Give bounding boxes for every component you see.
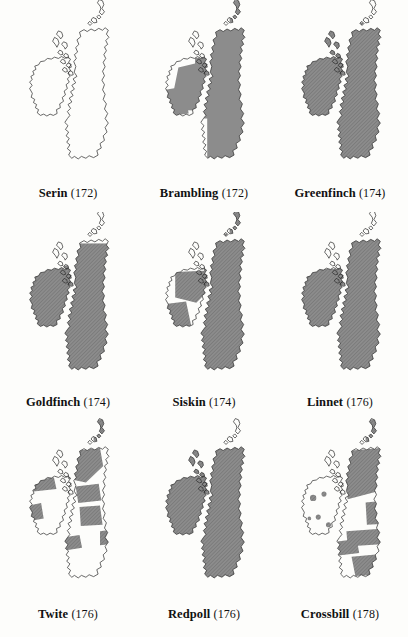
- land-fill-layer: [276, 417, 404, 608]
- map-panel-twite[interactable]: Twite (176): [0, 417, 136, 637]
- map-caption-twite: Twite (176): [0, 608, 136, 637]
- species-name: Crossbill: [301, 607, 350, 621]
- species-name: Brambling: [160, 186, 219, 200]
- species-name: Serin: [39, 186, 68, 200]
- species-name: Redpoll: [168, 607, 210, 621]
- land-fill-layer: [4, 417, 132, 608]
- map-panel-serin[interactable]: Serin (172): [0, 0, 136, 212]
- distribution-map-greenfinch: [276, 0, 404, 187]
- map-panel-linnet[interactable]: Linnet (176): [272, 212, 408, 417]
- land-fill-layer: [140, 212, 268, 396]
- map-caption-linnet: Linnet (176): [272, 396, 408, 417]
- distribution-map-crossbill: [276, 417, 404, 608]
- map-caption-goldfinch: Goldfinch (174): [0, 396, 136, 417]
- species-name: Greenfinch: [295, 186, 356, 200]
- page-number: (174): [209, 395, 236, 409]
- page-number: (178): [353, 607, 380, 621]
- distribution-map-serin: [4, 0, 132, 187]
- species-name: Siskin: [172, 395, 205, 409]
- page-number: (176): [214, 607, 241, 621]
- map-figure-goldfinch: [0, 212, 136, 396]
- map-figure-twite: [0, 417, 136, 608]
- map-figure-serin: [0, 0, 136, 187]
- land-fill-layer: [4, 0, 132, 187]
- map-panel-brambling[interactable]: Brambling (172): [136, 0, 272, 212]
- species-name: Goldfinch: [26, 395, 80, 409]
- map-caption-brambling: Brambling (172): [136, 187, 272, 212]
- page-number: (174): [84, 395, 111, 409]
- map-figure-linnet: [272, 212, 408, 396]
- map-panel-crossbill[interactable]: Crossbill (178): [272, 417, 408, 637]
- distribution-map-goldfinch: [4, 212, 132, 396]
- map-panel-redpoll[interactable]: Redpoll (176): [136, 417, 272, 637]
- map-caption-serin: Serin (172): [0, 187, 136, 212]
- page-number: (172): [222, 186, 249, 200]
- land-fill-layer: [276, 0, 404, 187]
- page-number: (176): [346, 395, 373, 409]
- page-number: (176): [71, 607, 98, 621]
- map-caption-crossbill: Crossbill (178): [272, 608, 408, 637]
- map-panel-siskin[interactable]: Siskin (174): [136, 212, 272, 417]
- page-number: (174): [359, 186, 386, 200]
- map-figure-redpoll: [136, 417, 272, 608]
- map-figure-brambling: [136, 0, 272, 187]
- land-fill-layer: [140, 417, 268, 608]
- map-grid: Serin (172) Brambling (172): [0, 0, 408, 637]
- map-figure-crossbill: [272, 417, 408, 608]
- map-panel-greenfinch[interactable]: Greenfinch (174): [272, 0, 408, 212]
- page-number: (172): [71, 186, 98, 200]
- map-caption-greenfinch: Greenfinch (174): [272, 187, 408, 212]
- distribution-map-siskin: [140, 212, 268, 396]
- map-figure-siskin: [136, 212, 272, 396]
- species-name: Twite: [38, 607, 68, 621]
- map-caption-siskin: Siskin (174): [136, 396, 272, 417]
- land-fill-layer: [276, 212, 404, 396]
- map-caption-redpoll: Redpoll (176): [136, 608, 272, 637]
- distribution-map-linnet: [276, 212, 404, 396]
- land-fill-layer: [4, 212, 132, 396]
- species-name: Linnet: [307, 395, 343, 409]
- land-fill-layer: [140, 0, 268, 187]
- map-panel-goldfinch[interactable]: Goldfinch (174): [0, 212, 136, 417]
- distribution-map-twite: [4, 417, 132, 608]
- coastline-layer: [30, 0, 109, 159]
- map-figure-greenfinch: [272, 0, 408, 187]
- distribution-map-redpoll: [140, 417, 268, 608]
- distribution-map-brambling: [140, 0, 268, 187]
